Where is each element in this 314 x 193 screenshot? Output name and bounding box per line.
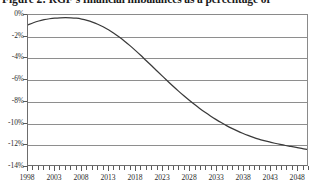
x-axis-major-tick xyxy=(135,166,136,171)
line-series-svg xyxy=(28,15,307,165)
x-axis-minor-tick xyxy=(32,166,33,170)
x-axis-minor-tick xyxy=(265,166,266,170)
x-axis-minor-tick xyxy=(249,166,250,170)
x-axis-major-tick xyxy=(108,166,109,171)
x-axis-minor-tick xyxy=(86,166,87,170)
x-axis-major-tick xyxy=(54,166,55,171)
x-axis-minor-tick xyxy=(65,166,66,170)
x-axis-minor-tick xyxy=(254,166,255,170)
x-axis-minor-tick xyxy=(195,166,196,170)
plot-area xyxy=(27,14,308,166)
x-axis-minor-tick xyxy=(286,166,287,170)
x-axis-minor-tick xyxy=(184,166,185,170)
x-axis-major-tick xyxy=(27,166,28,171)
x-axis-minor-tick xyxy=(157,166,158,170)
x-axis-minor-tick xyxy=(113,166,114,170)
x-axis-minor-tick xyxy=(168,166,169,170)
series-line-path xyxy=(28,18,307,150)
y-axis-tick-label: -10% xyxy=(0,119,24,127)
y-axis-tick-label: 0% xyxy=(0,10,24,18)
figure-title: Figure 2: RGF's financial imbalances as … xyxy=(2,0,314,6)
x-axis-major-tick xyxy=(297,166,298,171)
x-axis-minor-tick xyxy=(173,166,174,170)
x-axis-minor-tick xyxy=(97,166,98,170)
y-axis-tick-label: -8% xyxy=(0,97,24,105)
x-axis-minor-tick xyxy=(232,166,233,170)
x-axis-minor-tick xyxy=(49,166,50,170)
y-axis-tick-label: -4% xyxy=(0,53,24,61)
x-axis-tick-label: 2048 xyxy=(281,173,313,182)
figure-container: Figure 2: RGF's financial imbalances as … xyxy=(0,0,314,193)
x-axis-minor-tick xyxy=(119,166,120,170)
x-axis-major-tick xyxy=(243,166,244,171)
y-axis-tick-label: -14% xyxy=(0,162,24,170)
x-axis-minor-tick xyxy=(222,166,223,170)
x-axis-minor-tick xyxy=(124,166,125,170)
x-axis-major-tick xyxy=(189,166,190,171)
x-axis-minor-tick xyxy=(103,166,104,170)
x-axis-minor-tick xyxy=(38,166,39,170)
x-axis-major-tick xyxy=(162,166,163,171)
x-axis-minor-tick xyxy=(130,166,131,170)
x-axis-minor-tick xyxy=(211,166,212,170)
x-axis-minor-tick xyxy=(200,166,201,170)
x-axis-minor-tick xyxy=(281,166,282,170)
x-axis-minor-tick xyxy=(205,166,206,170)
x-axis-minor-tick xyxy=(140,166,141,170)
x-axis-minor-tick xyxy=(92,166,93,170)
x-axis-major-tick xyxy=(216,166,217,171)
x-axis-minor-tick xyxy=(292,166,293,170)
y-axis-tick-label: -6% xyxy=(0,75,24,83)
y-axis-tick-label: -12% xyxy=(0,140,24,148)
x-axis-minor-tick xyxy=(59,166,60,170)
x-axis-minor-tick xyxy=(43,166,44,170)
y-axis-tick-label: -2% xyxy=(0,32,24,40)
x-axis-minor-tick xyxy=(259,166,260,170)
x-axis-minor-tick xyxy=(238,166,239,170)
x-axis-major-tick xyxy=(270,166,271,171)
x-axis-minor-tick xyxy=(146,166,147,170)
x-axis-minor-tick xyxy=(308,166,309,170)
x-axis-minor-tick xyxy=(76,166,77,170)
x-axis-minor-tick xyxy=(303,166,304,170)
x-axis-major-tick xyxy=(81,166,82,171)
x-axis-minor-tick xyxy=(227,166,228,170)
x-axis-minor-tick xyxy=(178,166,179,170)
x-axis-minor-tick xyxy=(276,166,277,170)
x-axis-minor-tick xyxy=(151,166,152,170)
x-axis-minor-tick xyxy=(70,166,71,170)
